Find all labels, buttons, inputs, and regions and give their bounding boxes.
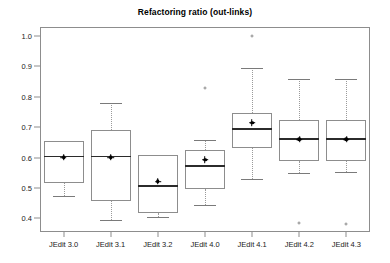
- box-plot-figure: Refactoring ratio (out-links) 0.40.50.60…: [0, 0, 390, 263]
- box-plot-group: [0, 0, 390, 263]
- whisker-lower: [346, 161, 347, 172]
- outlier-point: [345, 223, 348, 226]
- whisker-upper: [346, 79, 347, 121]
- whisker-cap-lower: [335, 172, 357, 173]
- mean-marker: [345, 138, 349, 142]
- whisker-cap-upper: [335, 79, 357, 80]
